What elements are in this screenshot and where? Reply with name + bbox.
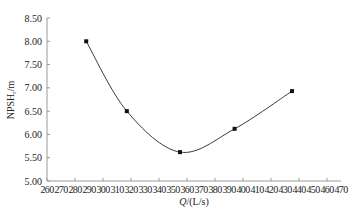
x-axis-title-unit: /(L/s) (187, 196, 209, 208)
y-tick-label: 5.50 (25, 152, 43, 163)
x-tick-label: 270 (54, 184, 68, 195)
npsh-chart: 5.005.506.006.507.007.508.008.50 2602702… (0, 0, 356, 215)
x-tick-label: 340 (152, 184, 166, 195)
y-tick-label: 5.00 (25, 176, 43, 187)
x-tick-label: 300 (96, 184, 110, 195)
y-tick-label: 7.00 (25, 82, 43, 93)
y-axis-title-unit: /m (5, 81, 16, 92)
x-tick-label: 400 (236, 184, 250, 195)
x-tick-label: 390 (222, 184, 236, 195)
y-axis: 5.005.506.006.507.007.508.008.50 (25, 13, 51, 187)
y-tick-label: 6.00 (25, 129, 43, 140)
x-tick-label: 260 (40, 184, 54, 195)
data-point-marker (290, 89, 294, 93)
x-tick-label: 470 (334, 184, 348, 195)
x-tick-label: 370 (194, 184, 208, 195)
x-tick-label: 380 (208, 184, 222, 195)
x-axis: 2602702802903003103203303403503603703803… (40, 178, 348, 195)
x-tick-label: 440 (292, 184, 306, 195)
data-markers (84, 39, 294, 154)
y-tick-label: 7.50 (25, 59, 43, 70)
x-tick-label: 450 (306, 184, 320, 195)
x-tick-label: 310 (110, 184, 124, 195)
x-tick-label: 320 (124, 184, 138, 195)
data-point-marker (84, 39, 88, 43)
x-tick-label: 460 (320, 184, 334, 195)
x-tick-label: 420 (264, 184, 278, 195)
data-point-marker (178, 150, 182, 154)
x-tick-label: 350 (166, 184, 180, 195)
data-point-marker (233, 127, 237, 131)
x-tick-label: 360 (180, 184, 194, 195)
y-tick-label: 8.00 (25, 36, 43, 47)
x-axis-title: Q/(L/s) (179, 196, 208, 208)
x-tick-label: 330 (138, 184, 152, 195)
y-axis-title-main: NPSH (5, 94, 16, 120)
x-tick-label: 410 (250, 184, 264, 195)
x-tick-label: 290 (82, 184, 96, 195)
y-tick-label: 8.50 (25, 13, 43, 24)
npsh-curve (86, 41, 292, 152)
x-tick-label: 280 (68, 184, 82, 195)
y-axis-title: NPSHr/m (5, 81, 18, 120)
x-tick-label: 430 (278, 184, 292, 195)
y-tick-label: 6.50 (25, 106, 43, 117)
data-point-marker (125, 109, 129, 113)
